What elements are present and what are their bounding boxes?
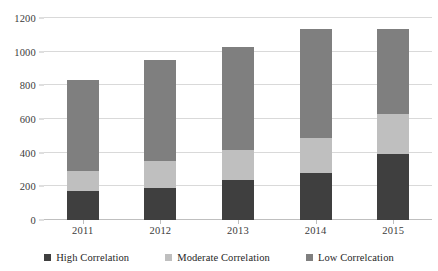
bar-segment[interactable] (144, 60, 176, 161)
x-axis-tick-label: 2013 (227, 225, 249, 236)
stacked-bar-chart: 020040060080010001200 201120122013201420… (0, 0, 438, 271)
bar-segment[interactable] (144, 188, 176, 220)
legend-item[interactable]: Low Correlcation (306, 252, 394, 263)
legend-swatch-icon (306, 254, 313, 261)
bar-group[interactable] (354, 18, 432, 220)
legend-swatch-icon (165, 254, 172, 261)
x-axis-tick-label: 2014 (305, 225, 327, 236)
y-axis-tick-label: 400 (20, 147, 36, 158)
bar-segment[interactable] (377, 29, 409, 114)
bar-segment[interactable] (300, 138, 332, 173)
bar-segment[interactable] (67, 171, 99, 191)
y-axis-tick-label: 600 (20, 114, 36, 125)
bar-stack[interactable] (67, 80, 99, 220)
legend-swatch-icon (44, 254, 51, 261)
bar-segment[interactable] (300, 29, 332, 138)
y-axis-tick-label: 0 (31, 215, 36, 226)
legend-item[interactable]: Moderate Correlation (165, 252, 270, 263)
legend-label: High Correlation (56, 252, 129, 263)
y-axis-tick-label: 1000 (14, 46, 36, 57)
x-axis-tick-mark (393, 220, 394, 224)
bar-segment[interactable] (67, 191, 99, 220)
bar-stack[interactable] (300, 29, 332, 220)
bar-group[interactable] (44, 18, 122, 220)
bar-segment[interactable] (67, 80, 99, 171)
chart-legend: High CorrelationModerate CorrelationLow … (0, 247, 438, 267)
bar-stack[interactable] (222, 47, 254, 220)
bar-segment[interactable] (222, 150, 254, 179)
bar-segment[interactable] (222, 180, 254, 220)
bars-layer (44, 18, 432, 220)
bar-segment[interactable] (377, 154, 409, 220)
bar-segment[interactable] (300, 173, 332, 220)
legend-item[interactable]: High Correlation (44, 252, 129, 263)
bar-stack[interactable] (144, 60, 176, 220)
x-axis-tick-label: 2015 (382, 225, 404, 236)
bar-group[interactable] (122, 18, 200, 220)
bar-segment[interactable] (222, 47, 254, 150)
x-axis-tick-mark (316, 220, 317, 224)
x-axis-tick-mark (83, 220, 84, 224)
bar-segment[interactable] (377, 114, 409, 154)
y-axis-tick-label: 200 (20, 181, 36, 192)
x-axis-tick-mark (238, 220, 239, 224)
y-axis: 020040060080010001200 (0, 0, 44, 238)
legend-label: Moderate Correlation (177, 252, 270, 263)
x-axis-tick-label: 2012 (149, 225, 171, 236)
y-axis-tick-label: 1200 (14, 13, 36, 24)
bar-group[interactable] (277, 18, 355, 220)
legend-label: Low Correlcation (318, 252, 394, 263)
y-axis-tick-label: 800 (20, 80, 36, 91)
bar-group[interactable] (199, 18, 277, 220)
x-axis-tick-mark (160, 220, 161, 224)
x-axis: 20112012201320142015 (44, 220, 432, 242)
bar-segment[interactable] (144, 161, 176, 188)
bar-stack[interactable] (377, 29, 409, 220)
x-axis-tick-label: 2011 (72, 225, 93, 236)
